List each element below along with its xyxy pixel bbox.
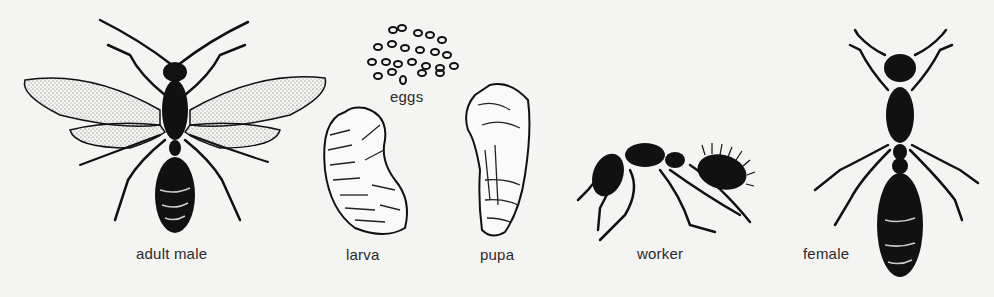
label-pupa: pupa xyxy=(480,246,514,263)
worker-illustration xyxy=(578,143,755,240)
label-worker: worker xyxy=(637,245,683,262)
label-eggs: eggs xyxy=(390,88,423,105)
female-illustration xyxy=(815,30,978,277)
ant-lifecycle-figure: adult male eggs larva pupa worker female xyxy=(0,0,994,297)
larva-illustration xyxy=(324,108,407,235)
label-female: female xyxy=(803,245,849,262)
eggs-illustration xyxy=(368,25,458,84)
label-larva: larva xyxy=(346,246,380,263)
label-adult-male: adult male xyxy=(136,245,207,262)
pupa-illustration xyxy=(466,84,529,236)
